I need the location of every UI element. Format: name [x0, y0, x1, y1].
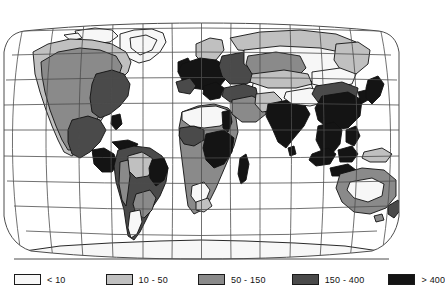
region-kazakh-steppe	[250, 70, 312, 88]
legend-label-4: > 400	[421, 275, 445, 285]
legend: < 10 10 - 50 50 - 150 150 - 400 > 400	[0, 264, 403, 295]
legend-swatch-0	[14, 274, 41, 285]
legend-swatch-3	[292, 274, 319, 285]
legend-swatch-2	[198, 274, 225, 285]
legend-label-0: < 10	[47, 275, 66, 285]
legend-label-3: 150 - 400	[325, 275, 365, 285]
legend-swatch-4	[388, 274, 415, 285]
legend-entry-4: > 400	[388, 274, 445, 285]
legend-entry-0: < 10	[14, 274, 66, 285]
map-area	[0, 0, 403, 262]
legend-label-2: 50 - 150	[231, 275, 266, 285]
legend-entry-3: 150 - 400	[292, 274, 365, 285]
world-map-svg	[0, 0, 403, 262]
legend-label-1: 10 - 50	[139, 275, 168, 285]
legend-swatch-1	[106, 274, 133, 285]
legend-entry-1: 10 - 50	[106, 274, 168, 285]
legend-entry-2: 50 - 150	[198, 274, 266, 285]
region-tasmania	[374, 214, 384, 222]
